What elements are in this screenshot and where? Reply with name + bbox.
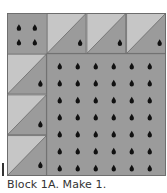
quilt-block-diagram (7, 13, 166, 176)
edge-mark (2, 163, 4, 176)
block-caption: Block 1A. Make 1. (7, 178, 106, 191)
center-square (47, 54, 166, 176)
corner-square (7, 13, 47, 54)
